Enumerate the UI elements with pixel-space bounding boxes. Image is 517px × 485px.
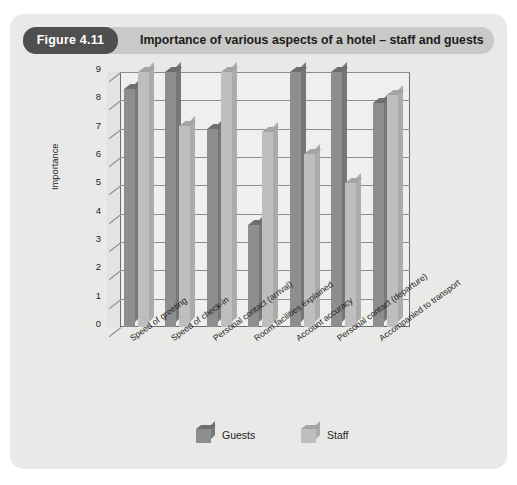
chart-plot-area	[120, 72, 410, 327]
figure-title: Importance of various aspects of a hotel…	[140, 27, 484, 54]
chart-bars	[120, 72, 410, 327]
figure-number-badge: Figure 4.11	[23, 27, 118, 54]
legend-label-staff: Staff	[327, 429, 348, 441]
bar-side	[356, 173, 361, 323]
y-tick-label-2: 2	[75, 261, 101, 272]
bar-side	[190, 116, 195, 322]
legend-swatch-guests	[196, 429, 211, 443]
y-tick-label-4: 4	[75, 205, 101, 216]
bar-face	[124, 89, 135, 327]
y-tick-label-5: 5	[75, 176, 101, 187]
bar-face	[373, 103, 384, 327]
bar-face	[331, 72, 342, 327]
legend-swatch-face	[196, 429, 211, 443]
bar-face	[207, 129, 218, 327]
bar-guests-5	[331, 72, 342, 327]
bar-side	[232, 62, 237, 322]
legend-swatch-staff	[301, 429, 316, 443]
y-tick-label-8: 8	[75, 91, 101, 102]
bar-face	[165, 72, 176, 327]
bar-face	[221, 72, 232, 327]
bar-side	[149, 62, 154, 322]
y-tick-label-3: 3	[75, 233, 101, 244]
bar-guests-0	[124, 89, 135, 327]
legend-label-guests: Guests	[222, 429, 255, 441]
bar-guests-2	[207, 129, 218, 327]
y-tick-label-6: 6	[75, 148, 101, 159]
chart-y-axis-title: Importance	[50, 143, 60, 190]
bar-guests-1	[165, 72, 176, 327]
bar-face	[138, 72, 149, 327]
legend-swatch-face	[301, 429, 316, 443]
bar-staff-2	[221, 72, 232, 327]
bar-guests-6	[373, 103, 384, 327]
figure-page: Figure 4.11 Importance of various aspect…	[0, 0, 517, 485]
y-tick-label-0: 0	[75, 318, 101, 329]
y-tick-label-1: 1	[75, 290, 101, 301]
bar-staff-0	[138, 72, 149, 327]
y-tick-label-9: 9	[75, 63, 101, 74]
y-tick-label-7: 7	[75, 120, 101, 131]
